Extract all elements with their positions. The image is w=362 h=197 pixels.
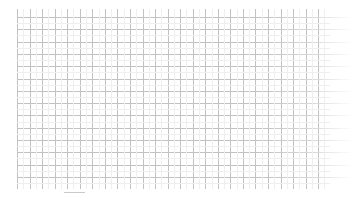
gridline-minor-vertical (299, 9, 300, 189)
gridline-minor-vertical (61, 9, 62, 189)
gridline-minor-vertical (73, 9, 74, 189)
gridline-vertical (168, 9, 169, 189)
gridline-vertical (230, 9, 231, 189)
gridline-vertical (17, 9, 18, 189)
gridline-minor-vertical (249, 9, 250, 189)
gridline-horizontal (17, 115, 353, 116)
gridline-minor-horizontal (17, 158, 330, 159)
gridline-minor-vertical (48, 9, 49, 189)
gridline-minor-horizontal (17, 60, 330, 61)
gridline-minor-vertical (186, 9, 187, 189)
gridline-minor-horizontal (17, 134, 330, 135)
gridline-vertical (117, 9, 118, 189)
gridline-minor-horizontal (17, 23, 330, 24)
gridline-minor-vertical (274, 9, 275, 189)
gridline-vertical (205, 9, 206, 189)
gridline-minor-horizontal (17, 48, 330, 49)
bottom-tick-mark (64, 192, 85, 193)
gridline-vertical (306, 9, 307, 189)
gridline-horizontal (17, 165, 353, 166)
gridline-minor-horizontal (17, 171, 330, 172)
gridline-horizontal (17, 128, 353, 129)
gridline-vertical (42, 9, 43, 189)
gridline-minor-horizontal (17, 97, 330, 98)
gridline-vertical (30, 9, 31, 189)
gridline-minor-vertical (287, 9, 288, 189)
gridline-vertical (143, 9, 144, 189)
screenshot-canvas (0, 0, 362, 197)
gridline-horizontal (17, 79, 353, 80)
gridline-minor-vertical (312, 9, 313, 189)
gridline-horizontal (17, 140, 353, 141)
gridline-vertical (255, 9, 256, 189)
gridline-horizontal (17, 66, 353, 67)
gridline-vertical (155, 9, 156, 189)
gridline-minor-vertical (136, 9, 137, 189)
gridline-vertical (105, 9, 106, 189)
gridline-minor-vertical (36, 9, 37, 189)
gridline-horizontal (17, 177, 353, 178)
gridline-minor-vertical (212, 9, 213, 189)
gridline-minor-vertical (111, 9, 112, 189)
gridline-vertical (281, 9, 282, 189)
gridline-minor-vertical (199, 9, 200, 189)
gridline-vertical (80, 9, 81, 189)
gridline-minor-horizontal (17, 35, 330, 36)
gridline-vertical (92, 9, 93, 189)
gridline-horizontal (17, 152, 353, 153)
gridline-vertical (268, 9, 269, 189)
gridline-vertical (180, 9, 181, 189)
gridline-minor-horizontal (17, 122, 330, 123)
gridline-minor-vertical (23, 9, 24, 189)
gridline-vertical (193, 9, 194, 189)
gridline-vertical (318, 9, 319, 189)
gridline-minor-vertical (262, 9, 263, 189)
gridline-horizontal (17, 29, 353, 30)
gridline-minor-vertical (99, 9, 100, 189)
gridline-minor-vertical (324, 9, 325, 189)
gridline-minor-vertical (161, 9, 162, 189)
gridline-minor-vertical (124, 9, 125, 189)
gridline-minor-horizontal (17, 109, 330, 110)
gridline-horizontal (17, 17, 353, 18)
gridline-minor-vertical (149, 9, 150, 189)
gridline-minor-horizontal (17, 72, 330, 73)
gridline-minor-vertical (174, 9, 175, 189)
gridline-minor-horizontal (17, 146, 330, 147)
gridline-vertical (130, 9, 131, 189)
gridline-horizontal (17, 103, 353, 104)
gridline-horizontal (17, 91, 353, 92)
gridline-minor-horizontal (17, 85, 330, 86)
gridline-minor-horizontal (17, 183, 330, 184)
gridline-horizontal (17, 42, 353, 43)
gridline-minor-vertical (86, 9, 87, 189)
gridline-vertical (243, 9, 244, 189)
chart-plot-area (17, 9, 326, 187)
gridline-vertical (67, 9, 68, 189)
gridline-minor-vertical (224, 9, 225, 189)
gridline-minor-vertical (237, 9, 238, 189)
gridline-vertical (55, 9, 56, 189)
gridline-horizontal (17, 54, 353, 55)
gridline-vertical (218, 9, 219, 189)
gridline-vertical (293, 9, 294, 189)
